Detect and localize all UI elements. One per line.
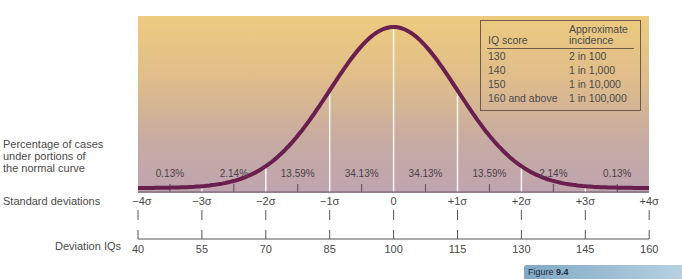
iq-score-cell: 160 and above bbox=[488, 92, 557, 104]
region-percent-label: 2.14% bbox=[539, 168, 567, 179]
region-percent-label: 34.13% bbox=[345, 168, 379, 179]
iq-incidence-table: IQ score Approximate incidence 130 2 in … bbox=[480, 20, 641, 111]
left-label-line: under portions of bbox=[3, 150, 103, 162]
region-percent-label: 0.13% bbox=[156, 168, 184, 179]
iq-tick-label: 115 bbox=[449, 243, 467, 255]
iq-score-cell: 130 bbox=[488, 50, 506, 62]
iq-tick-label: 85 bbox=[324, 243, 336, 255]
header-line: incidence bbox=[569, 35, 628, 46]
table-row: 140 1 in 1,000 bbox=[488, 64, 636, 76]
percentage-axis-label: Percentage of cases under portions of th… bbox=[3, 138, 103, 174]
sigma-tick-label: +3σ bbox=[576, 195, 595, 207]
table-header-incidence: Approximate incidence bbox=[569, 24, 628, 46]
table-header-iq-score: IQ score bbox=[488, 35, 528, 46]
region-percent-label: 13.59% bbox=[472, 168, 506, 179]
sigma-tick-label: +4σ bbox=[640, 195, 659, 207]
iq-tick-label: 55 bbox=[196, 243, 208, 255]
sigma-tick-label: +2σ bbox=[512, 195, 531, 207]
region-percent-label: 13.59% bbox=[281, 168, 315, 179]
table-row: 130 2 in 100 bbox=[488, 50, 636, 62]
incidence-cell: 1 in 10,000 bbox=[569, 78, 621, 90]
figure-prefix: Figure bbox=[528, 267, 554, 277]
figure-number: 9.4 bbox=[556, 267, 569, 277]
deviation-iqs-label: Deviation IQs bbox=[55, 240, 121, 252]
iq-tick-label: 40 bbox=[132, 243, 144, 255]
incidence-cell: 1 in 100,000 bbox=[569, 92, 627, 104]
region-percent-label: 0.13% bbox=[603, 168, 631, 179]
iq-tick-label: 145 bbox=[576, 243, 594, 255]
table-row: 160 and above 1 in 100,000 bbox=[488, 92, 636, 104]
region-percent-label: 2.14% bbox=[220, 168, 248, 179]
sigma-tick-label: −2σ bbox=[256, 195, 275, 207]
figure-label: Figure 9.4 bbox=[524, 265, 682, 279]
incidence-cell: 2 in 100 bbox=[569, 50, 606, 62]
iq-score-cell: 140 bbox=[488, 64, 506, 76]
left-label-line: Percentage of cases bbox=[3, 138, 103, 150]
iq-tick-label: 70 bbox=[260, 243, 272, 255]
sigma-tick-label: −4σ bbox=[132, 195, 151, 207]
region-percent-label: 34.13% bbox=[409, 168, 443, 179]
standard-deviations-label: Standard deviations bbox=[3, 195, 100, 207]
sigma-tick-label: −1σ bbox=[320, 195, 339, 207]
sigma-tick-label: 0 bbox=[391, 195, 397, 207]
iq-tick-label: 160 bbox=[640, 243, 658, 255]
iq-tick-label: 100 bbox=[384, 243, 402, 255]
table-header-divider bbox=[487, 48, 634, 49]
incidence-cell: 1 in 1,000 bbox=[569, 64, 615, 76]
table-row: 150 1 in 10,000 bbox=[488, 78, 636, 90]
sigma-tick-label: +1σ bbox=[448, 195, 467, 207]
sigma-tick-label: −3σ bbox=[192, 195, 211, 207]
iq-score-cell: 150 bbox=[488, 78, 506, 90]
iq-tick-label: 130 bbox=[512, 243, 530, 255]
left-label-line: the normal curve bbox=[3, 162, 103, 174]
